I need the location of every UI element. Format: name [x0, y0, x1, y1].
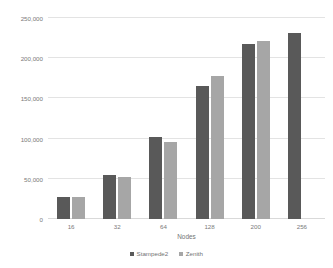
- throughput-bar-chart: Throughput (tokens per second) 050,00010…: [0, 0, 333, 268]
- bar-group: [190, 18, 230, 219]
- x-axis-tick-label: 200: [236, 221, 276, 233]
- bar-group: [51, 18, 91, 219]
- x-axis-tick-label: 32: [97, 221, 137, 233]
- chart-legend: Stampede2Zenith: [0, 250, 333, 257]
- legend-item: Zenith: [179, 250, 203, 257]
- bar-group: [97, 18, 137, 219]
- plot-area: [48, 18, 325, 219]
- bar-group: [143, 18, 183, 219]
- x-axis-tick-label: 16: [51, 221, 91, 233]
- legend-swatch-icon: [130, 252, 134, 256]
- y-axis-tick-labels: 050,000100,000150,000200,000250,000: [0, 18, 46, 219]
- bar-zenith: [257, 41, 270, 219]
- bar-stampede2: [149, 137, 162, 219]
- bar-groups: [48, 18, 325, 219]
- bar-stampede2: [242, 44, 255, 219]
- bar-zenith: [118, 177, 131, 219]
- bar-stampede2: [196, 86, 209, 219]
- y-axis-tick-label: 250,000: [21, 15, 43, 22]
- x-axis-tick-label: 256: [282, 221, 322, 233]
- bar-group: [236, 18, 276, 219]
- x-axis-tick-label: 128: [190, 221, 230, 233]
- y-axis-tick-label: 50,000: [24, 175, 43, 182]
- bar-zenith: [211, 76, 224, 219]
- bar-zenith: [72, 197, 85, 219]
- bar-stampede2: [103, 175, 116, 219]
- bar-stampede2: [288, 33, 301, 219]
- y-axis-tick-label: 0: [40, 216, 43, 223]
- legend-item: Stampede2: [130, 250, 168, 257]
- legend-label: Zenith: [186, 250, 203, 257]
- x-axis-tick-labels: 163264128200256: [48, 221, 325, 233]
- bar-stampede2: [57, 197, 70, 220]
- legend-swatch-icon: [179, 252, 183, 256]
- y-axis-tick-label: 200,000: [21, 55, 43, 62]
- legend-label: Stampede2: [137, 250, 169, 257]
- x-axis-title: Nodes: [48, 233, 325, 240]
- bar-group: [282, 18, 322, 219]
- y-axis-tick-label: 100,000: [21, 135, 43, 142]
- y-axis-tick-label: 150,000: [21, 95, 43, 102]
- x-axis-tick-label: 64: [143, 221, 183, 233]
- bar-zenith: [164, 142, 177, 219]
